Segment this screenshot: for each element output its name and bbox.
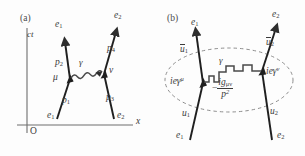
panel-b-adjoint-spinor-2: u2: [266, 37, 274, 48]
particle-index: 2: [281, 133, 284, 140]
panel-b-outgoing-electron-2: e2: [272, 10, 279, 20]
panel-a-horizontal-axis-label: x: [136, 117, 140, 127]
panel-a-vertical-axis-label: ct: [27, 30, 34, 39]
panel-b-outgoing-electron-1: e1: [191, 18, 198, 28]
panel-b-photon-propagator: − igμν p2: [212, 78, 233, 99]
particle-index: 1: [51, 113, 54, 120]
momentum-index: 3: [111, 95, 114, 102]
diagram-canvas: [0, 0, 305, 156]
panel-a-momentum-p2: p2: [55, 58, 63, 68]
vertex-prefix: ie: [266, 66, 273, 76]
denominator-exponent: 2: [226, 88, 229, 95]
particle-index: 2: [118, 13, 121, 20]
lorentz-index: ν: [277, 65, 280, 72]
spinor-index: 1: [185, 47, 188, 54]
panel-a-photon-line: [71, 71, 103, 79]
panel-a-incoming-electron-2: e2: [117, 111, 124, 121]
panel-b-adjoint-spinor-1: u1: [180, 44, 188, 55]
particle-index: 1: [195, 20, 198, 27]
spinor-index: 2: [271, 40, 274, 47]
panel-a-axes: [17, 28, 133, 133]
panel-a-vertex-mu: μ: [53, 73, 58, 83]
particle-index: 2: [121, 113, 124, 120]
momentum-index: 1: [67, 98, 70, 105]
panel-b-tag: (b): [167, 14, 178, 24]
vertex-prefix: ie: [170, 76, 177, 86]
spinor-index: 2: [275, 109, 278, 116]
propagator-denominator: p2: [217, 89, 233, 99]
panel-a-left-fermion-line: [57, 42, 74, 119]
panel-a-photon-label: γ: [79, 58, 83, 67]
particle-index: 2: [276, 12, 279, 19]
panel-b-incoming-electron-1: e1: [176, 131, 183, 141]
momentum-index: 2: [60, 60, 63, 67]
numerator-indices: μν: [226, 80, 232, 87]
spinor-index: 1: [187, 111, 190, 118]
panel-b-vertex-factor-nu: ieγν: [266, 66, 279, 76]
feynman-diagram-figure: (a) ct x O e1 e2 e1 e2 p2 p1 p3 p4 μ ν γ…: [0, 0, 305, 156]
panel-a-outgoing-electron-1: e1: [55, 20, 62, 30]
panel-a-incoming-electron-1: e1: [47, 111, 54, 121]
panel-b-vertex-factor-mu: ieγμ: [170, 76, 184, 86]
panel-a-origin-label: O: [30, 127, 37, 137]
panel-a-vertex-nu: ν: [109, 66, 113, 76]
panel-a-outgoing-electron-2: e2: [114, 11, 121, 21]
panel-b-photon-label: γ: [219, 56, 223, 65]
panel-a-momentum-p4: p4: [107, 44, 115, 54]
particle-index: 1: [180, 133, 183, 140]
particle-index: 1: [59, 22, 62, 29]
panel-b-incoming-electron-2: e2: [277, 131, 284, 141]
panel-a-momentum-p1: p1: [62, 96, 70, 106]
panel-b-spinor-2: u2: [270, 107, 278, 117]
panel-b-left-fermion-line: [190, 32, 207, 140]
numerator-prefix: ig: [218, 77, 225, 87]
panel-a-tag: (a): [20, 14, 31, 24]
momentum-index: 4: [112, 46, 115, 53]
propagator-fraction: igμν p2: [217, 78, 233, 99]
panel-a-momentum-p3: p3: [106, 93, 114, 103]
panel-b-spinor-1: u1: [182, 109, 190, 119]
lorentz-index: μ: [181, 75, 184, 82]
